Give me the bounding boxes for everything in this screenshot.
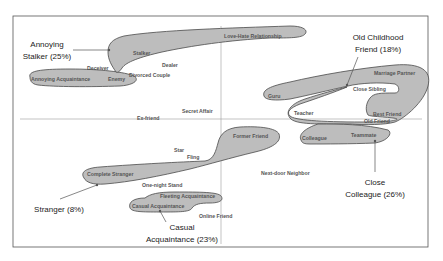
term-complete-stranger: Complete Stranger [87,171,133,177]
cluster-label-annoying-stalker: Annoying [30,40,63,49]
relationship-map: Love-Hate Relationship Stalker Deceiver … [0,0,443,261]
term-fling: Fling [187,154,199,160]
cluster-label-stranger: Stranger (8%) [34,205,84,214]
term-marriage-partner: Marriage Partner [374,70,415,76]
term-best-friend: Best Friend [373,111,402,117]
cluster-label-close-colleague-pct: Colleague (26%) [345,190,405,199]
cluster-label-old-childhood-friend-pct: Friend (18%) [355,45,402,54]
term-ex-friend: Ex-friend [137,115,159,121]
term-online-friend: Online Friend [199,213,232,219]
term-one-night-stand: One-night Stand [142,182,182,188]
term-fleeting-acquaintance: Fleeting Acquaintance [160,193,215,199]
term-enemy: Enemy [108,76,125,82]
term-secret-affair: Secret Affair [182,108,213,114]
term-former-friend: Former Friend [233,133,268,139]
term-star: Star [174,147,184,153]
term-dealer: Dealer [162,62,178,68]
term-deceiver: Deceiver [87,65,109,71]
term-teacher: Teacher [294,110,314,116]
term-stalker: Stalker [133,50,150,56]
term-love-hate-relationship: Love-Hate Relationship [224,33,282,39]
cluster-label-casual-acquaintance-pct: Acquaintance (23%) [146,235,218,244]
cluster-label-casual-acquaintance: Casual [170,223,195,232]
term-colleague: Colleague [302,135,327,141]
term-guru: Guru [268,93,280,99]
term-divorced-couple: Divorced Couple [129,72,170,78]
term-teammate: Teammate [351,132,376,138]
cluster-label-annoying-stalker-pct: Stalker (25%) [23,52,72,61]
cluster-label-close-colleague: Close [365,178,386,187]
term-casual-acquaintance: Casual Acquaintance [132,203,184,209]
term-annoying-acquaintance: Annoying Acquaintance [31,76,90,82]
term-old-friend: Old Friend [364,118,390,124]
cluster-label-old-childhood-friend: Old Childhood [353,33,404,42]
term-close-sibling: Close Sibling [353,86,386,92]
term-next-door-neighbor: Next-door Neighbor [261,170,310,176]
